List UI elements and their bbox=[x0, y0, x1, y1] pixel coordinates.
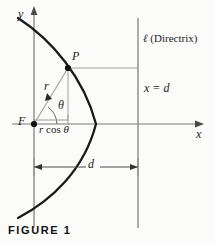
angle-arc bbox=[48, 107, 57, 124]
directrix-equation-label: x = d bbox=[144, 82, 169, 94]
figure-caption: FIGURE 1 bbox=[8, 224, 72, 236]
r-cos-theta-theta: θ bbox=[63, 123, 68, 135]
d-dimension-line bbox=[34, 158, 138, 176]
figure-container: y x F P r θ r cos θ d x = d ℓ (Directrix… bbox=[0, 0, 214, 243]
directrix-paren-text: (Directrix) bbox=[148, 32, 198, 44]
radius-label: r bbox=[44, 80, 49, 92]
r-cos-theta-cos: cos bbox=[43, 123, 63, 135]
point-p-label: P bbox=[72, 50, 79, 62]
parabola-curve bbox=[18, 18, 96, 218]
point-P bbox=[65, 65, 71, 71]
distance-d-label: d bbox=[88, 158, 94, 170]
focus-label: F bbox=[18, 115, 25, 127]
focal-radius-segment bbox=[34, 68, 68, 124]
directrix-name-label: ℓ (Directrix) bbox=[143, 33, 197, 44]
y-axis-label: y bbox=[18, 8, 23, 20]
angle-theta-label: θ bbox=[58, 99, 64, 111]
y-axis-arrowhead bbox=[31, 6, 38, 15]
r-cos-theta-label: r cos θ bbox=[39, 124, 69, 135]
x-axis-label: x bbox=[196, 128, 201, 140]
focus-point-F bbox=[31, 121, 37, 127]
